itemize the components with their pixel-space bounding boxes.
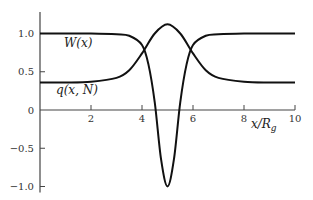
- x-tick-label: 8: [241, 113, 247, 124]
- x-tick-label: 4: [139, 113, 145, 124]
- chart: 2468101.00.50−0.5−1.0 W(x) q(x, N) x/Rg: [0, 0, 313, 200]
- y-tick-label: −1.0: [10, 181, 34, 192]
- y-tick-label: 1.0: [18, 28, 34, 39]
- x-axis-label: x/Rg: [251, 117, 277, 133]
- y-tick-label: 0.5: [18, 66, 34, 77]
- y-tick-label: −0.5: [10, 143, 34, 154]
- x-tick-label: 6: [190, 113, 196, 124]
- x-tick-label: 10: [289, 113, 302, 124]
- w-curve-label: W(x): [64, 36, 93, 50]
- y-tick-label: 0: [28, 105, 34, 116]
- x-tick-label: 2: [88, 113, 94, 124]
- q-curve-label: q(x, N): [56, 83, 98, 97]
